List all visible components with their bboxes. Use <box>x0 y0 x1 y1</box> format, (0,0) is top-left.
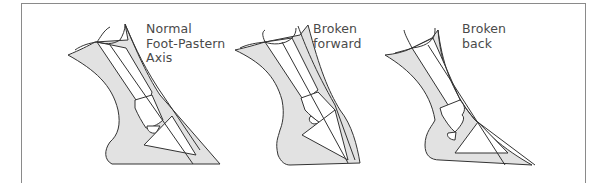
label-line: forward <box>313 37 362 52</box>
label-broken-forward: Broken forward <box>313 22 362 51</box>
label-broken-back: Broken back <box>462 22 506 51</box>
label-line: Broken <box>313 22 362 37</box>
hoof-broken-back-illustration <box>385 28 535 165</box>
label-line: Broken <box>462 22 506 37</box>
label-line: Axis <box>146 51 225 66</box>
label-line: back <box>462 37 506 52</box>
label-normal-foot-pastern-axis: Normal Foot-Pastern Axis <box>146 22 225 66</box>
label-line: Normal <box>146 22 225 37</box>
hoof-diagrams <box>0 0 605 183</box>
label-line: Foot-Pastern <box>146 37 225 52</box>
